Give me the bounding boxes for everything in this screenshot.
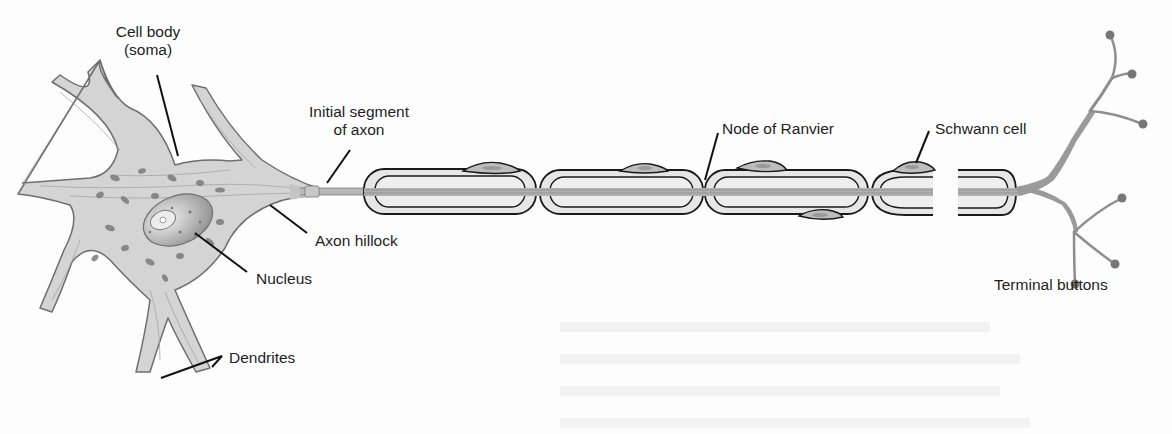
cell-body-label-line2: (soma) (105, 41, 191, 59)
schwann-cell-label: Schwann cell (935, 120, 1026, 138)
initial-segment-label-line2: of axon (300, 121, 418, 139)
axon-terminals (1016, 31, 1148, 289)
schwann-cell-leader-line (916, 131, 929, 163)
initial-segment-of-axon (300, 186, 370, 197)
terminal-button-icon (1139, 120, 1148, 129)
axon (364, 188, 1020, 196)
cell-body-label: Cell body (soma) (105, 23, 191, 59)
terminal-buttons-label: Terminal buttons (994, 276, 1108, 294)
neuron-diagram: Cell body (soma) Initial segment of axon… (0, 0, 1172, 434)
cell-body-label-line1: Cell body (105, 23, 191, 41)
terminal-button-dots (1071, 31, 1148, 289)
node-of-ranvier-label: Node of Ranvier (722, 120, 834, 138)
terminal-button-icon (1118, 194, 1127, 203)
terminal-button-icon (1128, 70, 1137, 79)
axon-hillock-label: Axon hillock (315, 232, 398, 250)
terminal-button-icon (1106, 31, 1115, 40)
nucleus-label: Nucleus (256, 270, 312, 288)
axon-hillock-leader-line (270, 205, 307, 233)
initial-segment-label-line1: Initial segment (300, 103, 418, 121)
dendrites-label: Dendrites (229, 349, 295, 367)
initial-segment-label: Initial segment of axon (300, 103, 418, 139)
initial-segment-leader-line (327, 150, 350, 183)
terminal-button-icon (1111, 260, 1120, 269)
